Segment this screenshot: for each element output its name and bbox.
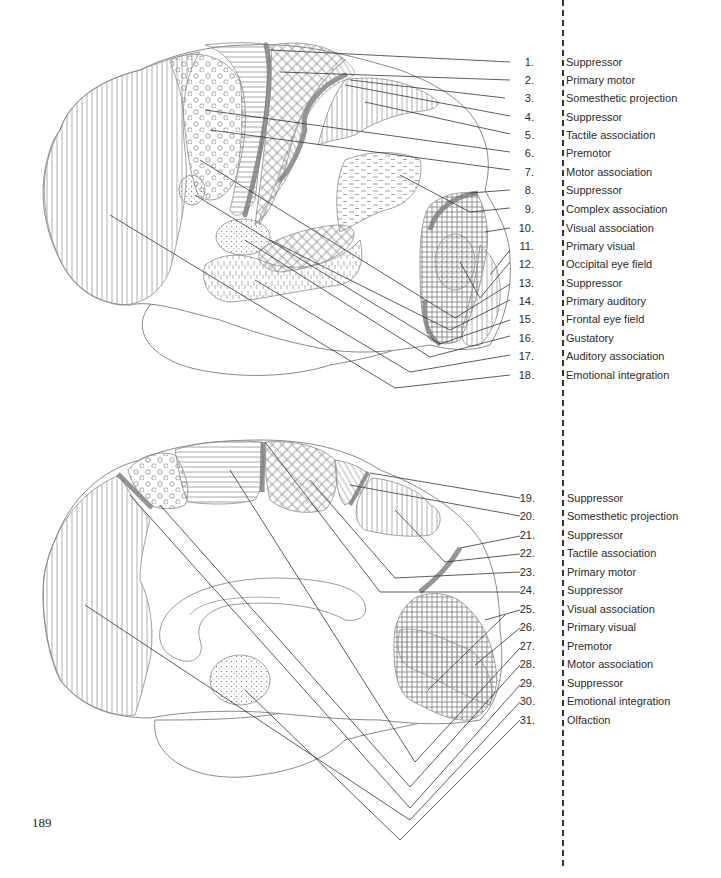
label-name: Emotional integration: [567, 695, 670, 707]
label-name: Somesthetic projection: [567, 510, 678, 522]
region-tactile-association-medial: [356, 478, 440, 536]
label-name: Suppressor: [567, 584, 623, 596]
region-motor-association-medial: [175, 441, 263, 504]
label-name: Suppressor: [567, 677, 623, 689]
region-occipital-eye-field: [435, 234, 475, 290]
label-name: Suppressor: [566, 111, 622, 123]
dashed-divider: [562, 0, 564, 866]
region-suppressor-band: [262, 442, 263, 492]
label-name: Motor association: [567, 658, 653, 670]
label-name: Premotor: [567, 640, 612, 652]
label-name: Visual association: [566, 222, 654, 234]
region-olfaction: [210, 655, 270, 705]
region-frontal-eye-field: [179, 175, 205, 205]
label-name: Tactile association: [567, 547, 656, 559]
label-name: Somesthetic projection: [566, 92, 677, 104]
label-name: Occipital eye field: [566, 258, 652, 270]
label-name: Primary auditory: [566, 295, 646, 307]
label-name: Suppressor: [567, 492, 623, 504]
label-name: Primary visual: [567, 621, 636, 633]
label-name: Complex association: [566, 203, 668, 215]
page-number: 189: [32, 815, 52, 831]
label-name: Visual association: [567, 603, 655, 615]
lateral-brain-view: [43, 43, 510, 388]
label-name: Olfaction: [567, 714, 610, 726]
label-name: Suppressor: [567, 529, 623, 541]
label-name: Emotional integration: [566, 369, 669, 381]
label-name: Frontal eye field: [566, 313, 644, 325]
label-name: Primary motor: [567, 566, 636, 578]
label-name: Gustatory: [566, 332, 614, 344]
label-name: Primary visual: [566, 240, 635, 252]
label-name: Motor association: [566, 166, 652, 178]
medial-brain-view: [43, 440, 520, 840]
label-name: Suppressor: [566, 277, 622, 289]
label-name: Premotor: [566, 147, 611, 159]
label-name: Primary motor: [566, 74, 635, 86]
label-name: Suppressor: [566, 184, 622, 196]
label-name: Tactile association: [566, 129, 655, 141]
label-name: Suppressor: [566, 56, 622, 68]
label-name: Auditory association: [566, 350, 664, 362]
